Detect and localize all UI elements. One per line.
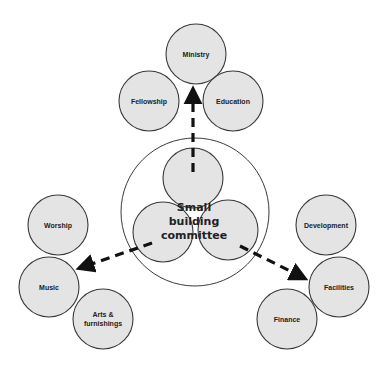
ministry-label: Ministry xyxy=(183,51,210,59)
fellowship-label: Fellowship xyxy=(131,98,167,106)
development-label: Development xyxy=(304,222,349,230)
music-label: Music xyxy=(39,284,59,291)
arts-node xyxy=(73,289,133,349)
right-group: Development Facilities Finance xyxy=(257,195,369,349)
center-committee: Small building committee xyxy=(121,138,269,286)
center-label-line3: committee xyxy=(161,229,227,242)
finance-label: Finance xyxy=(274,316,301,323)
center-label-line2: building xyxy=(169,215,220,228)
top-group: Ministry Fellowship Education xyxy=(119,24,263,131)
center-label-line1: Small xyxy=(177,201,211,214)
facilities-label: Facilities xyxy=(324,284,354,291)
committee-diagram: Ministry Fellowship Education Worship Mu… xyxy=(0,0,391,372)
arts-label-line1: Arts & xyxy=(92,311,113,318)
arts-label-line2: furnishings xyxy=(84,320,122,328)
worship-label: Worship xyxy=(44,222,72,230)
education-label: Education xyxy=(216,98,250,105)
left-group: Worship Music Arts & furnishings xyxy=(19,195,133,349)
